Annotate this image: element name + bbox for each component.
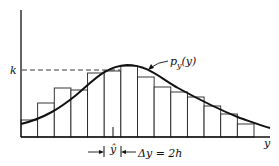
arrowhead-icon xyxy=(148,64,154,70)
histogram-chart: k py(y) ŷ Δy = 2h y xyxy=(0,0,279,166)
histogram-bar xyxy=(204,106,221,137)
histogram-bar xyxy=(187,97,204,137)
histogram-bar xyxy=(121,66,138,137)
curve-label: py(y) xyxy=(170,55,196,70)
histogram-bar xyxy=(221,114,238,137)
delta-label: Δy = 2h xyxy=(137,147,182,160)
histogram-bars xyxy=(21,66,254,137)
histogram-bar xyxy=(171,92,188,137)
histogram-bar xyxy=(54,88,71,137)
histogram-bar xyxy=(38,103,55,137)
x-axis-label: y xyxy=(263,137,271,150)
yhat-label: ŷ xyxy=(109,143,117,156)
histogram-bar xyxy=(154,87,171,137)
histogram-bar xyxy=(138,77,155,137)
right-arrow-icon xyxy=(99,150,104,154)
left-arrow-icon xyxy=(121,150,126,154)
k-label: k xyxy=(10,64,17,77)
histogram-bar xyxy=(237,124,254,137)
